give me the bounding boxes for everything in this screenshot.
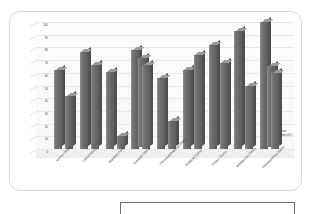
bar-group [30,22,296,149]
bar-series-group [30,18,296,158]
plot-area: 0102030405060708090100 Kannur DistrictCa… [30,18,296,163]
x-axis-labels: Kannur DistrictCalicut DistrictWayanad D… [30,158,296,191]
bar-series2 [271,73,279,149]
bar-top-face [273,70,284,73]
screenshot-root: 0102030405060708090100 Kannur DistrictCa… [0,0,316,214]
bar-top-face [269,63,280,66]
bar-top-face [262,19,273,22]
bar-front-face [271,73,279,149]
legend-item-series2: Sum of C [280,133,292,137]
chart-container[interactable]: 0102030405060708090100 Kannur DistrictCa… [9,11,302,191]
chart-legend: Sum Sum of C [280,129,292,137]
bottom-panel[interactable] [120,202,295,214]
